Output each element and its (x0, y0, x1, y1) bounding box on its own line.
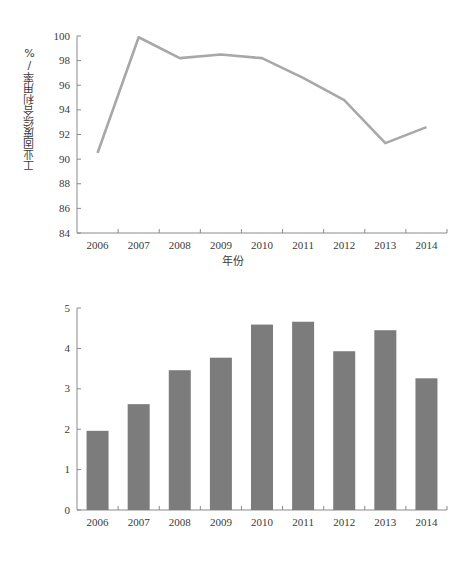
bar-chart-bar (374, 330, 396, 510)
line-chart-x-tick-label: 2008 (169, 239, 192, 251)
line-chart-x-tick-label: 2012 (333, 239, 355, 251)
bar-chart-bar (87, 431, 109, 510)
bar-chart-x-tick-label: 2010 (251, 516, 274, 528)
bar-chart-bar (292, 322, 314, 510)
line-chart-y-tick-label: 94 (59, 103, 71, 115)
line-chart-y-tick-label: 90 (59, 153, 71, 165)
bar-chart-plot: 0123452006200720082009201020112012201320… (0, 286, 465, 572)
bar-chart-y-tick-label: 4 (65, 342, 71, 354)
line-chart-x-tick-label: 2007 (128, 239, 151, 251)
bar-chart-x-tick-label: 2011 (292, 516, 314, 528)
bar-chart-x-tick-label: 2014 (415, 516, 438, 528)
line-chart-y-tick-label: 96 (59, 79, 71, 91)
bar-chart-y-tick-label: 2 (65, 423, 71, 435)
line-chart-y-tick-label: 88 (59, 177, 71, 189)
line-chart-y-tick-label: 100 (54, 30, 71, 42)
bar-chart-x-tick-label: 2006 (87, 516, 110, 528)
line-chart-y-tick-label: 92 (59, 128, 70, 140)
bar-chart-x-tick-label: 2012 (333, 516, 355, 528)
line-chart-series-path (98, 37, 427, 153)
line-chart-plot: 8486889092949698100200620072008200920102… (0, 0, 465, 286)
line-chart-x-tick-label: 2013 (374, 239, 397, 251)
bar-chart-bar (210, 358, 232, 510)
line-chart-x-tick-label: 2010 (251, 239, 274, 251)
bar-chart-x-tick-label: 2008 (169, 516, 192, 528)
bar-chart-figure: 工业危险固废综合利用量/万t 年份 0123452006200720082009… (0, 286, 465, 572)
bar-chart-y-tick-label: 5 (65, 302, 71, 314)
bar-chart-y-tick-label: 1 (65, 463, 71, 475)
bar-chart-bar (128, 404, 150, 510)
bar-chart-x-tick-label: 2007 (128, 516, 151, 528)
line-chart-x-tick-label: 2011 (292, 239, 314, 251)
line-chart-y-tick-label: 84 (59, 227, 71, 239)
bar-chart-x-tick-label: 2013 (374, 516, 397, 528)
bar-chart-bar (251, 325, 273, 510)
line-chart-x-tick-label: 2014 (415, 239, 438, 251)
line-chart-x-tick-label: 2009 (210, 239, 233, 251)
line-chart-y-tick-label: 98 (59, 54, 71, 66)
bar-chart-bar (169, 370, 191, 510)
bar-chart-y-tick-label: 0 (65, 504, 71, 516)
bar-chart-bar (415, 378, 437, 510)
bar-chart-bar (333, 351, 355, 510)
bar-chart-y-tick-label: 3 (65, 382, 71, 394)
line-chart-y-tick-label: 86 (59, 202, 71, 214)
line-chart-x-tick-label: 2006 (87, 239, 110, 251)
bar-chart-x-tick-label: 2009 (210, 516, 233, 528)
line-chart-figure: 工业固废综合利用率/% 年份 8486889092949698100200620… (0, 0, 465, 286)
